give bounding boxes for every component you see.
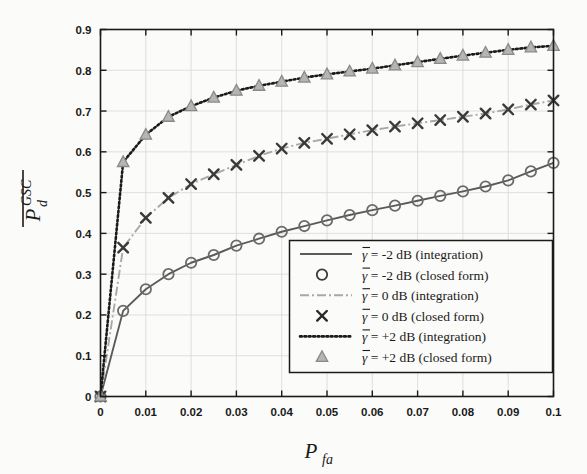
legend-entry-text: = 0 dB (closed form) [367, 309, 484, 324]
x-tick-label: 0.04 [271, 406, 294, 418]
y-axis-title-main: P [21, 208, 45, 222]
y-tick-label: 0.3 [76, 269, 92, 281]
roc-plot: 00.010.020.030.040.050.060.070.080.090.1… [0, 0, 587, 474]
legend-entry-text: = -2 dB (closed form) [367, 268, 488, 283]
y-tick-label: 0.2 [76, 309, 92, 321]
x-tick-label: 0.08 [452, 406, 475, 418]
y-tick-label: 0.9 [76, 24, 92, 36]
y-tick-label: 0.5 [76, 187, 93, 199]
x-tick-label: 0.09 [497, 406, 519, 418]
legend-entry-label: γ = +2 dB (integration) [362, 329, 486, 344]
x-tick-label: 0.06 [361, 406, 383, 418]
x-axis-title-sub: fa [322, 452, 333, 467]
x-tick-label: 0.05 [316, 406, 339, 418]
legend-entry-label: γ = 0 dB (integration) [362, 288, 478, 303]
x-axis-title-main: P [304, 439, 318, 463]
legend-entry-label: γ = 0 dB (closed form) [362, 309, 484, 324]
x-tick-label: 0 [97, 406, 103, 418]
legend: γ = -2 dB (integration)γ = -2 dB (closed… [290, 241, 553, 373]
legend-entry-text: = +2 dB (closed form) [367, 350, 491, 365]
x-tick-label: 0.02 [180, 406, 202, 418]
y-tick-label: 0.8 [76, 65, 93, 77]
y-tick-label: 0.7 [76, 106, 92, 118]
x-tick-label: 0.03 [225, 406, 247, 418]
legend-entry-label: γ = -2 dB (integration) [362, 247, 483, 262]
legend-entry-text: = +2 dB (integration) [367, 329, 486, 344]
y-tick-label: 0.4 [76, 228, 93, 240]
y-tick-label: 0.6 [76, 146, 92, 158]
y-axis-title-superscript: GSC [19, 179, 34, 206]
x-tick-label: 0.1 [546, 406, 563, 418]
y-tick-label: 0.1 [76, 350, 93, 362]
y-tick-label: 0 [85, 391, 91, 403]
x-tick-label: 0.07 [406, 406, 428, 418]
legend-entry-label: γ = -2 dB (closed form) [362, 268, 489, 283]
legend-entry-text: = 0 dB (integration) [367, 288, 478, 303]
x-tick-label: 0.01 [135, 406, 158, 418]
chart-figure: 00.010.020.030.040.050.060.070.080.090.1… [0, 0, 587, 474]
legend-entry-label: γ = +2 dB (closed form) [362, 350, 492, 365]
y-axis-title-sub: d [35, 199, 50, 207]
legend-entry-text: = -2 dB (integration) [367, 247, 483, 262]
